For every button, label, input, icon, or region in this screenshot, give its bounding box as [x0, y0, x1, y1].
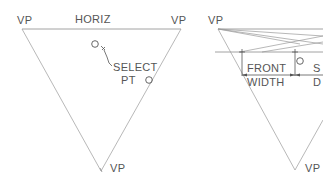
- point-marker-circle[interactable]: [92, 41, 99, 48]
- right-panel-front-width-construction: VP FRONT WIDTH S D VP: [208, 14, 323, 174]
- vp-label-top-right: VP: [171, 14, 186, 26]
- vp-ray-1: [218, 29, 323, 44]
- horizon-label: HORIZ: [75, 13, 111, 25]
- front-label: FRONT: [247, 62, 286, 74]
- cursor-crosshair-icon: [101, 46, 105, 50]
- vp-label-top-left: VP: [17, 14, 32, 26]
- left-panel-three-point-setup: VP HORIZ VP SELECT PT VP: [17, 13, 186, 174]
- pt-circle-icon: [146, 77, 153, 84]
- arrow-left-side-icon: [295, 74, 300, 77]
- depth-label-partial: D: [313, 76, 321, 88]
- width-label: WIDTH: [247, 76, 285, 88]
- vp-label-bottom: VP: [110, 162, 125, 174]
- prompt-select: SELECT: [113, 61, 158, 73]
- right-side-line: [101, 29, 181, 171]
- arrow-right-icon: [290, 74, 295, 77]
- perspective-diagram: VP HORIZ VP SELECT PT VP VP: [0, 0, 323, 187]
- left-side-line: [22, 29, 101, 171]
- left-side-line-right-panel: [218, 29, 295, 170]
- vp-label-top-left-right-panel: VP: [208, 14, 223, 26]
- vp-label-bottom-right-panel: VP: [305, 162, 320, 174]
- prompt-pt: PT: [121, 74, 136, 86]
- vp-ray-2: [218, 29, 300, 44]
- cross-ray-2: [262, 42, 323, 52]
- side-label-partial: S: [313, 62, 321, 74]
- leader-line: [104, 50, 112, 66]
- point-marker-circle-right[interactable]: [297, 58, 304, 65]
- vp-ray-3: [218, 29, 323, 36]
